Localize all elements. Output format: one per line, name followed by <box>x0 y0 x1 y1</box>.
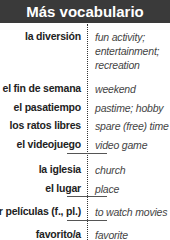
english-definition: weekend <box>95 82 170 96</box>
spanish-term: el lugar <box>45 182 81 194</box>
section-separator <box>67 153 107 154</box>
spanish-term: el videojuego <box>17 138 82 150</box>
column-divider <box>87 24 88 240</box>
spanish-term: ver películas (f., pl.) <box>0 205 81 217</box>
english-definition: to watch movies <box>95 205 170 219</box>
spanish-term: la iglesia <box>39 163 81 175</box>
english-definition: video game <box>95 138 170 152</box>
spanish-term: favorito/a <box>36 228 81 240</box>
english-definition: fun activity; entertainment; recreation <box>95 30 170 72</box>
spanish-term: el pasatiempo <box>14 101 81 113</box>
english-definition: pastime; hobby <box>95 101 170 115</box>
spanish-term: el fin de semana <box>3 82 82 94</box>
spanish-term: los ratos libres <box>10 119 82 131</box>
english-definition: spare (free) time <box>95 119 170 133</box>
spanish-term: la diversión <box>25 30 81 42</box>
english-definition: church <box>95 163 170 177</box>
english-definition: place <box>95 182 170 196</box>
section-separator <box>67 196 107 197</box>
section-separator <box>67 220 107 221</box>
english-definition: favorite <box>95 228 170 240</box>
page-title: Más vocabulario <box>0 0 170 23</box>
